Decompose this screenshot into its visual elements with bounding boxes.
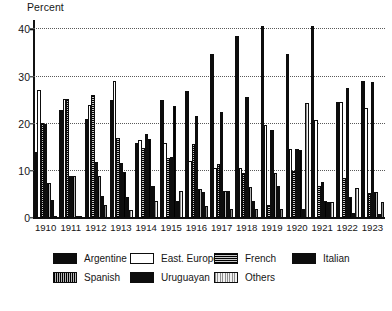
- bar-1921-uruguayan: [327, 202, 331, 219]
- legend-item-others[interactable]: Others: [214, 270, 275, 284]
- legend-item-spanish[interactable]: Spanish: [53, 270, 120, 284]
- bar-1912-argentine: [85, 119, 89, 218]
- legend-item-french[interactable]: French: [214, 251, 276, 265]
- x-tick-label-1915: 1915: [161, 222, 182, 233]
- legend-swatch-icon: [53, 272, 77, 283]
- bar-1912-uruguayan: [101, 196, 105, 218]
- legend-swatch-icon: [214, 253, 238, 264]
- x-tick-label-1919: 1919: [261, 222, 282, 233]
- x-tick-label-1918: 1918: [236, 222, 257, 233]
- bar-1914-others: [154, 201, 158, 218]
- bar-1915-french: [166, 158, 170, 218]
- legend-item-east-europe[interactable]: East. Europe*: [130, 251, 223, 265]
- legend-swatch-icon: [53, 253, 77, 264]
- bar-1922-spanish: [349, 197, 353, 218]
- bar-1914-spanish: [148, 139, 152, 218]
- bar-1919-argentine: [261, 26, 265, 218]
- legend-label: Uruguayan: [161, 272, 210, 283]
- bar-group-1912: [85, 20, 108, 218]
- bar-1912-italian: [94, 162, 98, 218]
- bar-1916-spanish: [198, 189, 202, 218]
- legend-item-argentine[interactable]: Argentine: [53, 251, 127, 265]
- bar-1911-east-europe: [63, 99, 67, 218]
- bar-1917-argentine: [210, 54, 214, 218]
- bar-1921-argentine: [311, 26, 315, 218]
- bar-group-1915: [160, 20, 183, 218]
- chart-root: Percent 010203040 1910191119121913191419…: [0, 0, 392, 311]
- legend-swatch-icon: [130, 253, 154, 264]
- bar-1920-argentine: [286, 54, 290, 218]
- x-tick-label-1912: 1912: [85, 222, 106, 233]
- legend-swatch-icon: [214, 272, 238, 283]
- legend-row: SpanishUruguayanOthers: [0, 270, 392, 286]
- bar-1916-italian: [195, 116, 199, 218]
- bar-1913-uruguayan: [126, 197, 130, 218]
- bar-1911-spanish: [72, 176, 76, 218]
- legend-swatch-icon: [292, 253, 316, 264]
- x-axis-tick-labels: 1910191119121913191419151916191719181919…: [33, 222, 385, 236]
- bar-1922-uruguayan: [352, 213, 356, 218]
- bar-1919-spanish: [273, 173, 277, 218]
- bar-1918-french: [242, 173, 246, 218]
- y-tick-label-40: 40: [4, 23, 30, 35]
- bar-1923-italian: [371, 82, 375, 218]
- bar-1911-others: [79, 216, 83, 218]
- x-tick-label-1914: 1914: [135, 222, 156, 233]
- bar-1913-argentine: [110, 100, 114, 218]
- bar-1918-italian: [245, 97, 249, 218]
- bar-1913-french: [116, 138, 120, 218]
- bar-1910-italian: [44, 124, 48, 218]
- bar-group-1922: [336, 20, 359, 218]
- bar-1923-east-europe: [364, 108, 368, 218]
- chart-legend: ArgentineEast. Europe*FrenchItalian Span…: [0, 249, 392, 293]
- x-tick-label-1920: 1920: [286, 222, 307, 233]
- bar-1923-uruguayan: [377, 214, 381, 218]
- bar-1917-spanish: [223, 191, 227, 218]
- bar-1919-uruguayan: [277, 186, 281, 218]
- bar-1915-uruguayan: [176, 201, 180, 218]
- bar-1921-east-europe: [314, 120, 318, 218]
- x-tick-label-1916: 1916: [186, 222, 207, 233]
- bar-1915-argentine: [160, 100, 164, 218]
- bar-1914-french: [141, 148, 145, 218]
- y-axis-tick-labels: 010203040: [0, 20, 30, 218]
- bar-1912-east-europe: [88, 105, 92, 218]
- bar-1920-uruguayan: [302, 209, 306, 218]
- bar-1916-french: [192, 144, 196, 218]
- x-tick-label-1913: 1913: [110, 222, 131, 233]
- bar-1920-french: [292, 171, 296, 218]
- bar-1910-spanish: [47, 183, 51, 218]
- bar-1919-east-europe: [264, 125, 268, 218]
- bar-1918-others: [255, 209, 259, 218]
- bar-group-1913: [110, 20, 133, 218]
- y-tick-label-10: 10: [4, 165, 30, 177]
- bar-1919-french: [267, 205, 271, 218]
- bar-1922-argentine: [336, 102, 340, 218]
- bar-1917-italian: [220, 112, 224, 218]
- bar-1916-east-europe: [188, 161, 192, 218]
- bar-1919-italian: [270, 130, 274, 218]
- bar-1914-italian: [145, 134, 149, 218]
- bar-1915-italian: [170, 157, 174, 218]
- bar-1922-others: [355, 188, 359, 218]
- x-tick-label-1917: 1917: [211, 222, 232, 233]
- bar-1913-east-europe: [113, 81, 117, 218]
- bar-1911-italian: [69, 176, 73, 218]
- bar-1916-others: [205, 206, 209, 218]
- legend-item-uruguayan[interactable]: Uruguayan: [130, 270, 210, 284]
- bar-1910-french: [41, 123, 45, 218]
- bar-1910-uruguayan: [50, 200, 54, 218]
- bar-1912-others: [104, 205, 108, 218]
- plot-area: [33, 20, 385, 218]
- bar-1921-french: [317, 186, 321, 218]
- bar-1910-others: [54, 216, 58, 218]
- bar-1923-others: [381, 202, 385, 218]
- y-tick-label-30: 30: [4, 71, 30, 83]
- x-tick-label-1922: 1922: [337, 222, 358, 233]
- legend-label: Italian: [323, 253, 350, 264]
- x-tick-label-1923: 1923: [362, 222, 383, 233]
- bar-1914-argentine: [135, 143, 139, 218]
- legend-item-italian[interactable]: Italian: [292, 251, 350, 265]
- legend-label: Others: [245, 272, 275, 283]
- bar-1911-french: [66, 99, 70, 218]
